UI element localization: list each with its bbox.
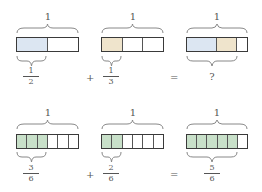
bar-cell xyxy=(238,135,247,148)
bar-cell-shaded xyxy=(27,135,37,148)
bar-cell xyxy=(143,38,163,51)
top-brace xyxy=(186,120,248,130)
whole-label: 1 xyxy=(42,12,54,22)
bar-cell-shaded xyxy=(197,135,207,148)
top-brace xyxy=(16,120,79,130)
whole-label: 1 xyxy=(127,108,139,118)
bottom-brace xyxy=(101,152,122,162)
bar-cell xyxy=(143,135,153,148)
whole-label: 1 xyxy=(211,108,223,118)
fraction-five-sixths: 56 xyxy=(204,164,220,183)
bottom-brace xyxy=(16,152,47,162)
whole-label: 1 xyxy=(127,12,139,22)
bottom-brace xyxy=(101,56,122,66)
top-brace xyxy=(186,24,248,34)
bottom-brace xyxy=(186,152,238,162)
fraction-bar-sum xyxy=(186,37,248,52)
bar-cell xyxy=(48,38,78,51)
bar-cell xyxy=(123,135,133,148)
bar-cell-remaining xyxy=(237,38,247,51)
plus-sign: + xyxy=(86,73,94,83)
bottom-brace xyxy=(186,56,238,66)
bar-cell xyxy=(58,135,68,148)
bar-cell xyxy=(48,135,58,148)
equals-sign: = xyxy=(170,73,178,83)
bar-cell xyxy=(69,135,78,148)
fraction-bar-sixths xyxy=(101,134,164,149)
equals-sign: = xyxy=(170,170,178,180)
bar-cell-third xyxy=(217,38,237,51)
top-brace xyxy=(16,24,79,34)
top-brace xyxy=(101,24,164,34)
bottom-brace xyxy=(16,56,47,66)
fraction-one-third: 13 xyxy=(103,67,119,86)
bar-cell-shaded xyxy=(102,135,112,148)
fraction-bar-sixths-sum xyxy=(186,134,248,149)
fraction-bar-thirds xyxy=(101,37,164,52)
bar-cell-shaded xyxy=(38,135,48,148)
fraction-two-sixths: 26 xyxy=(103,164,119,183)
fraction-three-sixths: 36 xyxy=(23,164,39,183)
plus-sign: + xyxy=(86,170,94,180)
bar-cell-shaded xyxy=(187,135,197,148)
bar-cell-shaded xyxy=(17,38,48,51)
unknown-result: ? xyxy=(206,72,218,82)
bar-cell-shaded xyxy=(102,38,123,51)
bar-cell xyxy=(123,38,144,51)
bar-cell xyxy=(133,135,143,148)
bar-cell-shaded xyxy=(228,135,238,148)
bar-cell-shaded xyxy=(17,135,27,148)
whole-label: 1 xyxy=(211,12,223,22)
bar-cell-half xyxy=(187,38,217,51)
fraction-one-half: 12 xyxy=(23,67,39,86)
fraction-bar-halves xyxy=(16,37,79,52)
fraction-bar-sixths xyxy=(16,134,79,149)
whole-label: 1 xyxy=(42,108,54,118)
bar-cell-shaded xyxy=(207,135,217,148)
top-brace xyxy=(101,120,164,130)
bar-cell-shaded xyxy=(218,135,228,148)
bar-cell-shaded xyxy=(112,135,122,148)
bar-cell xyxy=(154,135,163,148)
